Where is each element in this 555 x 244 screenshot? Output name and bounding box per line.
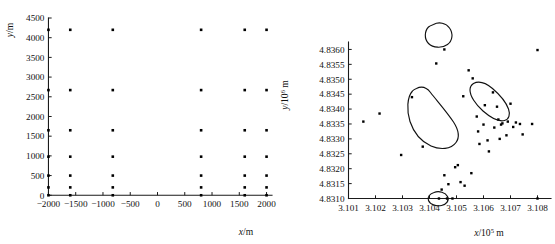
data-point — [521, 133, 523, 135]
data-point — [536, 197, 538, 199]
x-tick-label: 500 — [178, 199, 192, 209]
data-point — [463, 184, 465, 186]
data-point — [200, 186, 203, 189]
data-point — [451, 197, 453, 199]
data-point — [531, 123, 533, 125]
x-tick-label: 3.107 — [500, 203, 521, 213]
y-tick-label: 4.8345 — [319, 89, 345, 99]
data-point — [69, 186, 72, 189]
data-point — [111, 129, 114, 132]
data-point — [47, 194, 50, 197]
data-point — [243, 29, 246, 32]
data-point — [519, 123, 521, 125]
data-point — [265, 174, 268, 177]
data-point — [265, 29, 268, 32]
right-cluster-outlines — [408, 23, 510, 206]
y-tick-label: 4.8360 — [319, 45, 345, 55]
x-tick-label: −500 — [121, 199, 140, 209]
data-point — [362, 120, 364, 122]
data-point — [488, 150, 490, 152]
data-point — [482, 123, 484, 125]
data-point — [435, 62, 437, 64]
x-tick-label: −2000 — [37, 199, 61, 209]
data-point — [47, 174, 50, 177]
data-point — [505, 134, 507, 136]
data-point — [472, 77, 474, 79]
x-tick-label: −1500 — [64, 199, 88, 209]
data-point — [111, 155, 114, 158]
x-tick-label: 3.104 — [419, 203, 440, 213]
right-y-axis-title: y/106 m — [279, 80, 291, 111]
data-point — [47, 29, 50, 32]
data-point — [111, 174, 114, 177]
x-tick-label: 2000 — [257, 199, 276, 209]
data-point — [447, 183, 449, 185]
y-tick-label: 1000 — [26, 151, 45, 161]
data-point — [243, 89, 246, 92]
data-point — [378, 112, 380, 114]
data-point — [443, 48, 445, 50]
data-point — [200, 129, 203, 132]
data-point — [47, 186, 50, 189]
data-point — [443, 174, 445, 176]
y-tick-label: 4.8330 — [319, 134, 345, 144]
data-point — [111, 29, 114, 32]
data-point — [200, 89, 203, 92]
y-tick-label: 4.8350 — [319, 75, 345, 85]
x-tick-label: 3.102 — [365, 203, 386, 213]
data-point — [69, 29, 72, 32]
data-point — [265, 194, 268, 197]
data-point — [400, 154, 402, 156]
data-point — [438, 197, 440, 199]
x-tick-label: 3.105 — [446, 203, 467, 213]
data-point — [515, 121, 517, 123]
data-point — [111, 186, 114, 189]
data-point — [265, 155, 268, 158]
left-plot-svg: −2000−1500−1000−500050010001500200005001… — [0, 0, 280, 244]
data-point — [47, 129, 50, 132]
left-tick-labels: −2000−1500−1000−500050010001500200005001… — [26, 13, 276, 209]
data-point — [478, 143, 480, 145]
data-point — [476, 115, 478, 117]
data-point — [477, 130, 479, 132]
data-point — [69, 89, 72, 92]
data-point — [422, 145, 424, 147]
left-axes — [48, 18, 272, 195]
data-point — [69, 194, 72, 197]
data-point — [200, 194, 203, 197]
data-point — [470, 172, 472, 174]
y-tick-label: 4.8355 — [319, 60, 345, 70]
data-point — [265, 129, 268, 132]
data-point — [111, 89, 114, 92]
right-tick-labels: 3.1013.1023.1033.1043.1053.1063.1073.108… — [319, 45, 548, 213]
data-point — [509, 103, 511, 105]
data-point — [457, 164, 459, 166]
data-point — [493, 126, 495, 128]
data-point — [47, 155, 50, 158]
x-tick-label: 3.103 — [392, 203, 413, 213]
x-tick-label: 1500 — [230, 199, 249, 209]
data-point — [111, 194, 114, 197]
data-point — [243, 186, 246, 189]
data-point — [496, 105, 498, 107]
data-point — [454, 166, 456, 168]
data-point — [69, 155, 72, 158]
data-point — [200, 155, 203, 158]
data-point — [69, 129, 72, 132]
y-tick-label: 4500 — [26, 13, 45, 23]
y-tick-label: 4.8315 — [319, 179, 345, 189]
x-tick-label: 0 — [155, 199, 160, 209]
left-x-axis-title: x/m — [238, 226, 254, 237]
y-tick-label: 3000 — [26, 72, 45, 82]
y-tick-label: 500 — [31, 171, 45, 181]
y-tick-label: 4.8320 — [319, 164, 345, 174]
y-tick-label: 4.8335 — [319, 119, 345, 129]
x-tick-label: 3.106 — [473, 203, 494, 213]
left-data-points — [47, 29, 268, 197]
y-tick-label: 0 — [40, 191, 45, 201]
data-point — [467, 69, 469, 71]
data-point — [484, 104, 486, 106]
data-point — [243, 194, 246, 197]
y-tick-label: 2500 — [26, 92, 45, 102]
x-tick-label: 1000 — [203, 199, 222, 209]
